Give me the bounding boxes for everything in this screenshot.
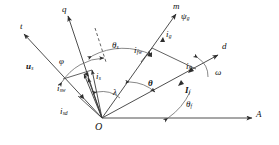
arrowhead-ig	[160, 37, 165, 42]
angle-label-theta-f: θf	[186, 100, 192, 110]
vector-label-psig-symbol: ψ	[181, 11, 187, 21]
angle-label-theta-s: θs	[112, 41, 119, 51]
axis-line-d	[102, 55, 218, 118]
dashed-reference-line	[95, 28, 106, 62]
arrowhead-isd	[79, 94, 84, 99]
vector-label-isw: isw	[57, 84, 66, 94]
axis-label-A: A	[256, 110, 262, 119]
vector-label-ig-sub: g	[169, 33, 172, 39]
vector-label-ifl-sub: fl	[189, 65, 192, 71]
angle-label-theta-f-symbol: θ	[186, 99, 190, 109]
vector-label-isd: isd	[60, 107, 68, 117]
vector-label-ig: ig	[166, 30, 172, 40]
angle-label-lambda: λ	[113, 88, 117, 97]
vector-label-is-sub: s	[99, 75, 101, 81]
axis-line-t	[24, 34, 102, 118]
axis-label-q: q	[62, 5, 67, 14]
angle-label-theta-f-sub: f	[191, 103, 193, 109]
angle-label-theta-s-sub: s	[117, 44, 119, 50]
vector-diagram: t q m d A O us isw isd is ifw ig ψg ifl …	[0, 0, 279, 145]
vector-label-us: us	[26, 62, 33, 72]
angle-label-phi: φ	[59, 57, 64, 66]
angle-label-omega: ω	[215, 68, 221, 77]
arrowhead-If	[178, 80, 184, 86]
angle-label-theta: θ	[148, 79, 153, 88]
vector-label-isd-sub: sd	[63, 110, 68, 116]
axis-label-d: d	[222, 42, 227, 51]
vector-label-isw-sub: sw	[60, 87, 66, 93]
vector-label-If-sub: f	[189, 89, 191, 95]
arc-theta-s	[92, 48, 152, 56]
vector-label-ifl: ifl	[186, 62, 192, 72]
axis-line-m	[102, 14, 176, 118]
vector-label-psig: ψg	[181, 12, 190, 22]
vector-label-If-symbol: I	[185, 85, 189, 95]
origin-label: O	[95, 122, 102, 132]
axis-label-m: m	[173, 2, 180, 11]
vector-label-If: If	[185, 86, 190, 96]
vector-label-psig-sub: g	[187, 15, 190, 21]
vector-label-ifw-sub: fw	[137, 49, 142, 55]
vector-label-us-sub: s	[31, 65, 33, 71]
diagram-canvas	[0, 0, 279, 145]
angle-label-theta-s-symbol: θ	[112, 40, 116, 50]
vector-label-is: is	[96, 72, 101, 82]
axis-label-t: t	[20, 22, 23, 31]
vector-label-ifw: ifw	[134, 46, 142, 56]
